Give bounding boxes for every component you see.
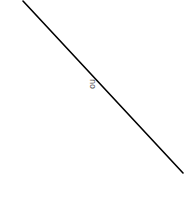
line-label: no <box>88 79 96 89</box>
diagram-canvas <box>0 0 186 198</box>
diagonal-line <box>23 1 183 173</box>
